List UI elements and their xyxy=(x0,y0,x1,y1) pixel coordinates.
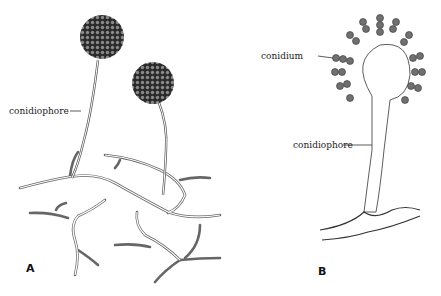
illustration xyxy=(0,0,441,296)
panel-label-b: B xyxy=(318,265,326,278)
spore-head-1 xyxy=(80,15,124,59)
spore-head-2 xyxy=(132,62,174,104)
label-b-conidium: conidium xyxy=(261,51,303,61)
panel-label-a: A xyxy=(26,262,35,275)
label-b-conidiophore: conidiophore xyxy=(293,140,353,150)
label-a-conidiophore: conidiophore xyxy=(9,106,69,116)
